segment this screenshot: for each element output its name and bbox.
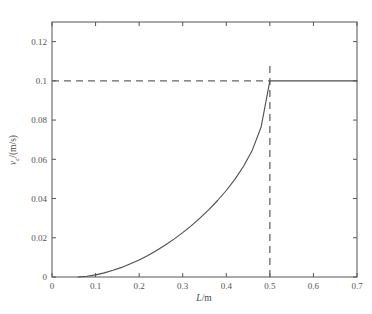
x-tick-label-1: 0.1 <box>90 281 101 291</box>
x-tick-label-4: 0.4 <box>221 281 233 291</box>
y-axis-ticks <box>52 42 357 277</box>
plot-frame <box>52 22 357 277</box>
x-axis-ticks <box>52 22 357 277</box>
y-axis-tick-labels: 00.020.040.060.080.10.12 <box>31 37 47 282</box>
x-tick-label-0: 0 <box>50 281 55 291</box>
y-tick-label-4: 0.08 <box>31 115 47 125</box>
x-axis-title: L/m <box>195 293 212 303</box>
y-tick-label-0: 0 <box>43 272 48 282</box>
x-tick-label-5: 0.5 <box>264 281 276 291</box>
chart-canvas: 00.10.20.30.40.50.60.7 00.020.040.060.08… <box>0 0 372 314</box>
y-tick-label-2: 0.04 <box>31 194 47 204</box>
y-tick-label-5: 0.1 <box>36 76 47 86</box>
x-axis-tick-labels: 00.10.20.30.40.50.60.7 <box>50 281 363 291</box>
data-series-layer <box>78 81 357 277</box>
annotation-layer <box>52 63 270 277</box>
y-tick-label-1: 0.02 <box>31 233 47 243</box>
x-tick-label-6: 0.6 <box>308 281 320 291</box>
y-tick-label-3: 0.06 <box>31 155 47 165</box>
series-line-0 <box>78 81 357 277</box>
x-tick-label-3: 0.3 <box>177 281 189 291</box>
x-tick-label-7: 0.7 <box>351 281 363 291</box>
figure-container: 00.10.20.30.40.50.60.7 00.020.040.060.08… <box>0 0 372 314</box>
y-tick-label-6: 0.12 <box>31 37 47 47</box>
x-tick-label-2: 0.2 <box>134 281 145 291</box>
y-axis-title: vc/(m/s) <box>8 135 21 165</box>
